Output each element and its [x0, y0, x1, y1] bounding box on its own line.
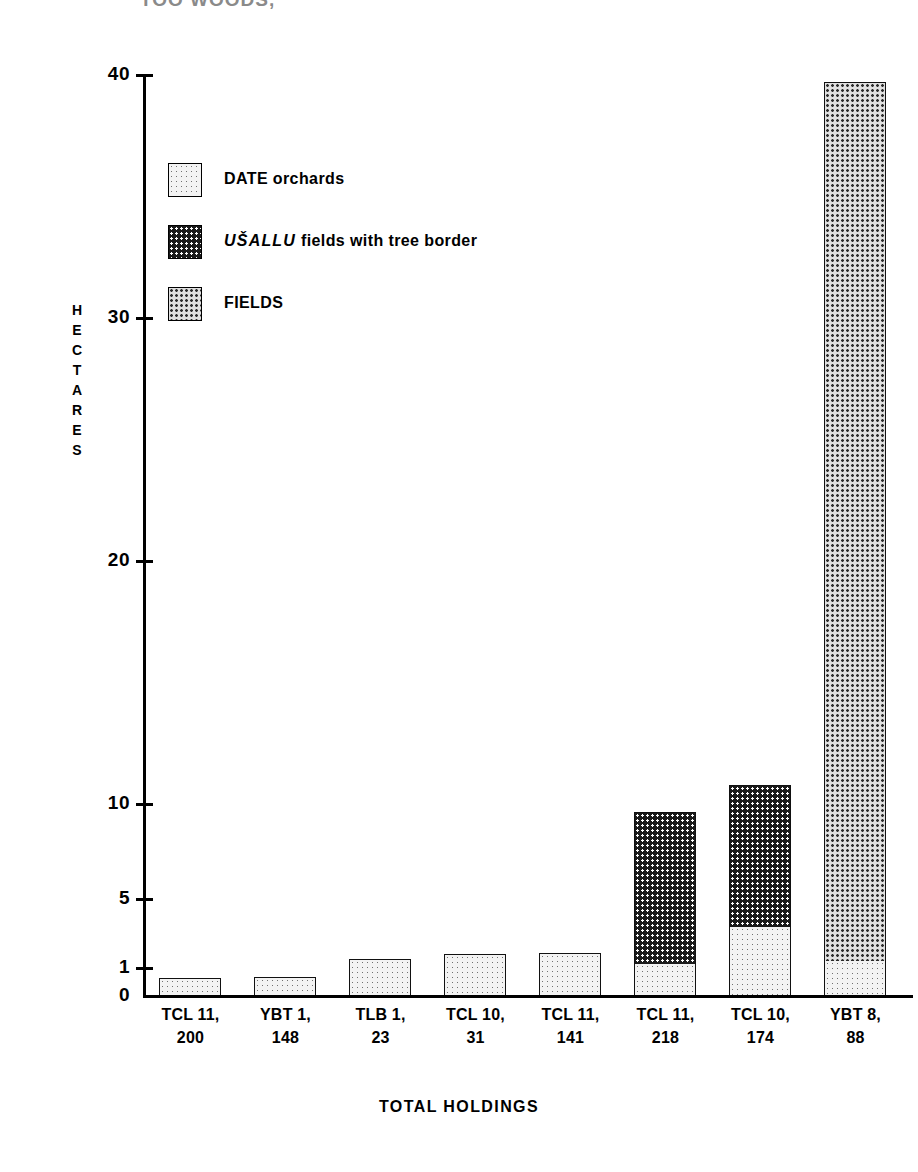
x-tick-label-line: TCL 11,	[618, 1003, 713, 1026]
x-tick-label-line: 88	[808, 1026, 903, 1049]
y-axis-title-letter: E	[66, 420, 88, 440]
bar-7[interactable]	[824, 82, 886, 995]
x-tick-label-4: TCL 11, 141	[523, 1003, 618, 1049]
bar-segment-usallu	[634, 812, 696, 964]
x-tick-label-1: YBT 1, 148	[238, 1003, 333, 1049]
x-axis-line	[143, 995, 913, 998]
bar-5[interactable]	[634, 812, 696, 995]
bar-0[interactable]	[159, 978, 221, 995]
bar-2[interactable]	[349, 959, 411, 995]
bar-segment-date	[824, 961, 886, 995]
x-tick-label-line: 200	[143, 1026, 238, 1049]
y-axis-title-letter: A	[66, 380, 88, 400]
y-tick-label: 40	[84, 64, 130, 83]
x-tick-label-line: 31	[428, 1026, 523, 1049]
x-tick-label-line: 141	[523, 1026, 618, 1049]
x-tick-label-7: YBT 8, 88	[808, 1003, 903, 1049]
x-axis-title: TOTAL HOLDINGS	[0, 1098, 918, 1116]
x-tick-label-6: TCL 10, 174	[713, 1003, 808, 1049]
x-tick-label-line: TCL 11,	[523, 1003, 618, 1026]
y-tick-label: 30	[84, 307, 130, 326]
x-tick-label-line: TLB 1,	[333, 1003, 428, 1026]
x-tick-label-line: YBT 8,	[808, 1003, 903, 1026]
bar-segment-date	[634, 964, 696, 995]
y-axis-title-letter: R	[66, 400, 88, 420]
y-tick-label: 20	[84, 550, 130, 569]
x-tick-label-3: TCL 10, 31	[428, 1003, 523, 1049]
x-tick-label-line: TCL 10,	[428, 1003, 523, 1026]
y-axis-title-letter: S	[66, 440, 88, 460]
chart-canvas: TOO WOODS, H E C T A R E S 40 30 20 10 5…	[0, 0, 918, 1172]
bar-segment-fields	[824, 82, 886, 961]
bar-segment-date	[539, 953, 601, 995]
x-tick-label-2: TLB 1, 23	[333, 1003, 428, 1049]
bar-1[interactable]	[254, 977, 316, 995]
y-tick-label: 0	[84, 985, 130, 1004]
bar-4[interactable]	[539, 953, 601, 995]
x-tick-label-line: YBT 1,	[238, 1003, 333, 1026]
clipped-header-text: TOO WOODS,	[140, 0, 480, 9]
bar-segment-date	[444, 954, 506, 995]
y-tick-label: 1	[84, 957, 130, 976]
bar-6[interactable]	[729, 785, 791, 995]
x-tick-label-line: TCL 11,	[143, 1003, 238, 1026]
x-tick-label-0: TCL 11, 200	[143, 1003, 238, 1049]
bar-segment-date	[349, 959, 411, 995]
bar-segment-usallu	[729, 785, 791, 927]
x-tick-label-line: 218	[618, 1026, 713, 1049]
y-axis-title-letter: C	[66, 340, 88, 360]
x-tick-label-line: 23	[333, 1026, 428, 1049]
x-tick-label-line: 174	[713, 1026, 808, 1049]
bar-segment-date	[254, 977, 316, 995]
bar-3[interactable]	[444, 954, 506, 995]
x-tick-label-5: TCL 11, 218	[618, 1003, 713, 1049]
bar-segment-date	[729, 927, 791, 995]
y-tick-label: 10	[84, 793, 130, 812]
plot-area	[143, 74, 913, 995]
y-tick-label: 5	[84, 888, 130, 907]
y-axis-title-letter: T	[66, 360, 88, 380]
x-tick-label-line: 148	[238, 1026, 333, 1049]
x-tick-label-line: TCL 10,	[713, 1003, 808, 1026]
bar-segment-date	[159, 978, 221, 995]
